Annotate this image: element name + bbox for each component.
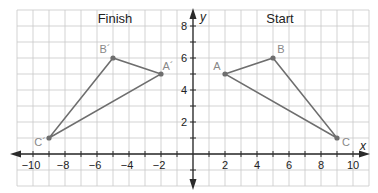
x-tick-label: 6 (286, 159, 292, 171)
y-tick-label: 8 (181, 20, 187, 32)
y-axis-down-arrow-icon (190, 179, 197, 190)
x-tick-label: 10 (347, 159, 359, 171)
x-tick-label: 2 (222, 159, 228, 171)
coordinate-plane: −10−8−6−4−22468102468 ABCA´B´C´ Finish S… (0, 0, 378, 193)
x-tick-label: −6 (89, 159, 102, 171)
x-axis-label: x (359, 139, 367, 153)
x-tick-label: −10 (22, 159, 41, 171)
vertex-point (334, 135, 339, 140)
vertex-point (158, 71, 163, 76)
vertex-point (270, 55, 275, 60)
x-axis-left-arrow-icon (10, 151, 21, 158)
finish-title: Finish (98, 11, 133, 26)
vertex-label: C (342, 136, 350, 148)
y-tick-label: 4 (181, 84, 187, 96)
y-tick-label: 6 (181, 52, 187, 64)
vertex-label: A (213, 60, 221, 72)
vertex-point (110, 55, 115, 60)
vertex-label: B (277, 43, 284, 55)
x-tick-label: 4 (254, 159, 260, 171)
axis-ticks: −10−8−6−4−22468102468 (22, 20, 359, 171)
vertex-point (46, 135, 51, 140)
vertex-label: B´ (100, 43, 111, 55)
x-tick-label: 8 (318, 159, 324, 171)
y-axis-label: y (199, 10, 207, 24)
vertex-label: C´ (34, 136, 46, 148)
x-tick-label: −2 (153, 159, 166, 171)
triangle-finish (49, 58, 161, 138)
x-tick-label: −4 (121, 159, 134, 171)
vertex-label: A´ (163, 60, 174, 72)
triangles: ABCA´B´C´ (34, 43, 350, 148)
start-title: Start (266, 11, 294, 26)
y-tick-label: 2 (181, 116, 187, 128)
vertex-point (222, 71, 227, 76)
x-tick-label: −8 (57, 159, 70, 171)
triangle-start (225, 58, 337, 138)
